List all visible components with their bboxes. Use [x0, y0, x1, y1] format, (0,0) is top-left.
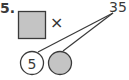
known-factor-label: 5 [28, 56, 37, 72]
multiply-sign: × [50, 16, 63, 30]
answer-box[interactable] [19, 12, 46, 39]
answer-circle[interactable] [49, 52, 72, 75]
product-value: 35 [109, 0, 127, 14]
bond-line-right [63, 13, 113, 51]
